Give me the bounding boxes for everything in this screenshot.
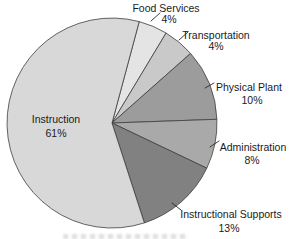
cropped-caption-remnant [63, 234, 187, 239]
callout-tick-food-services [151, 13, 160, 21]
slice-label-transportation: Transportation [182, 29, 249, 41]
slice-label-administration: Administration [220, 141, 287, 153]
slice-pct-physical-plant: 10% [241, 94, 262, 106]
pie-chart: Food Services4%Transportation4%Physical … [0, 0, 291, 239]
slice-label-instructional-supports: Instructional Supports [180, 208, 282, 220]
slice-pct-instruction: 61% [45, 127, 66, 139]
slice-label-instruction: Instruction [32, 113, 81, 125]
slice-pct-administration: 8% [244, 154, 259, 166]
slice-pct-food-services: 4% [161, 13, 176, 25]
slice-pct-instructional-supports: 13% [218, 222, 239, 234]
slice-pct-transportation: 4% [208, 40, 223, 52]
slice-label-physical-plant: Physical Plant [216, 81, 282, 93]
pie-chart-figure: Food Services4%Transportation4%Physical … [0, 0, 291, 239]
